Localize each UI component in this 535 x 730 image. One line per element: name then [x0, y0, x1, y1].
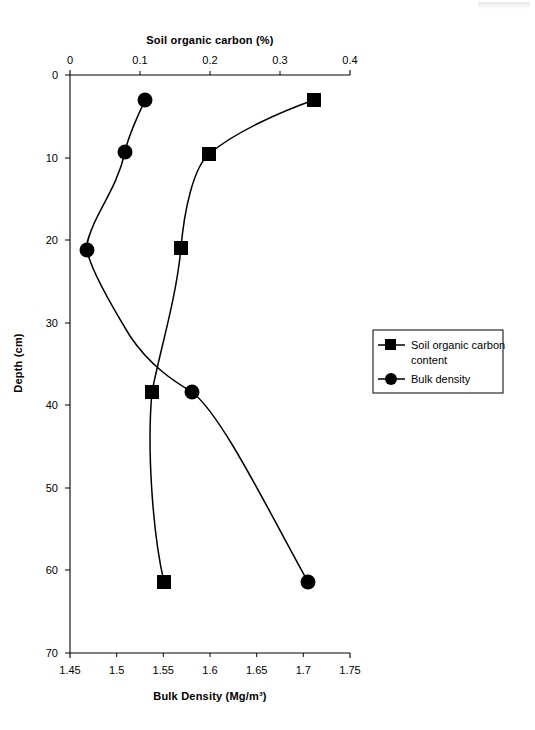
y-tick-label: 60: [46, 564, 58, 576]
top-tick-label: 0.4: [342, 54, 357, 66]
data-point-bd: [138, 93, 153, 108]
bottom-tick-label: 1.65: [246, 664, 267, 676]
y-tick-label: 10: [46, 152, 58, 164]
data-point-bd: [118, 145, 133, 160]
data-point-bd: [301, 575, 316, 590]
top-tick-label: 0: [67, 54, 73, 66]
top-tick-label: 0.2: [202, 54, 217, 66]
data-point-soc: [157, 575, 171, 589]
y-tick-label: 70: [46, 647, 58, 659]
y-tick-label: 20: [46, 234, 58, 246]
data-point-bd: [80, 243, 95, 258]
chart-canvas: Soil organic carbon (%) 0 0.1 0.2 0.3 0.…: [0, 0, 535, 730]
legend-label-soc-line2: content: [411, 354, 447, 366]
soil-profile-chart: Soil organic carbon (%) 0 0.1 0.2 0.3 0.…: [0, 0, 535, 730]
bottom-tick-label: 1.6: [202, 664, 217, 676]
bottom-tick-label: 1.75: [339, 664, 360, 676]
bottom-axis: [70, 653, 350, 658]
bottom-tick-label: 1.45: [59, 664, 80, 676]
legend-marker-square-icon: [385, 339, 396, 350]
data-point-bd: [185, 385, 200, 400]
y-tick-label: 50: [46, 482, 58, 494]
legend: Soil organic carbon content Bulk density: [373, 330, 505, 393]
bottom-tick-label: 1.7: [296, 664, 311, 676]
series-bulk-density: [80, 93, 316, 590]
data-point-soc: [307, 93, 321, 107]
y-tick-label: 40: [46, 399, 58, 411]
bottom-tick-label: 1.5: [109, 664, 124, 676]
y-axis-title: Depth (cm): [12, 333, 24, 393]
legend-marker-circle-icon: [385, 373, 397, 385]
bottom-axis-title: Bulk Density (Mg/m³): [153, 690, 267, 702]
legend-label-bd-line1: Bulk density: [411, 373, 471, 385]
data-point-soc: [145, 385, 159, 399]
y-tick-label: 30: [46, 317, 58, 329]
data-point-soc: [174, 241, 188, 255]
series-soil-organic-carbon: [145, 93, 321, 589]
legend-label-soc-line1: Soil organic carbon: [411, 339, 505, 351]
y-tick-label: 0: [52, 69, 58, 81]
top-tick-label: 0.1: [132, 54, 147, 66]
bottom-tick-label: 1.55: [153, 664, 174, 676]
top-axis-title: Soil organic carbon (%): [146, 34, 274, 46]
top-axis: [70, 70, 350, 75]
data-point-soc: [202, 147, 216, 161]
y-axis: [65, 75, 70, 653]
top-tick-label: 0.3: [272, 54, 287, 66]
